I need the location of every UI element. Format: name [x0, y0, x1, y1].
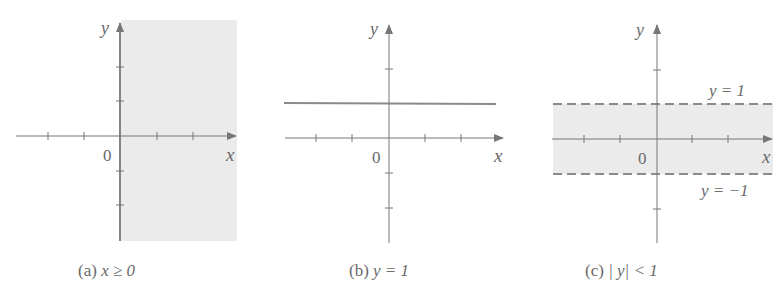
figure-canvas: y 0 x (a) x ≥ 0 y 0 x (b) y = 1: [0, 0, 784, 296]
x-axis-label: x: [225, 144, 235, 165]
caption-c: (c) | y| < 1: [585, 261, 658, 280]
shaded-half-plane: [121, 20, 237, 241]
y-axis-label: y: [368, 19, 378, 39]
origin-label: 0: [103, 146, 112, 165]
x-axis-label: x: [761, 146, 771, 167]
origin-label: 0: [638, 149, 647, 168]
upper-line-label: y = 1: [707, 81, 745, 100]
y-axis-label: y: [634, 20, 644, 40]
caption-b: (b) y = 1: [349, 261, 409, 280]
panel-c: y 0 x y = 1 y = −1 (c) | y| < 1: [552, 20, 773, 280]
line-y-equals-1: [284, 103, 496, 104]
y-axis-label: y: [99, 18, 109, 38]
lower-line-label: y = −1: [699, 181, 749, 200]
origin-label: 0: [372, 148, 381, 167]
panel-a: y 0 x (a) x ≥ 0: [16, 18, 237, 280]
panel-b: y 0 x (b) y = 1: [284, 19, 503, 280]
x-axis-label: x: [493, 145, 503, 166]
caption-a: (a) x ≥ 0: [78, 261, 136, 280]
